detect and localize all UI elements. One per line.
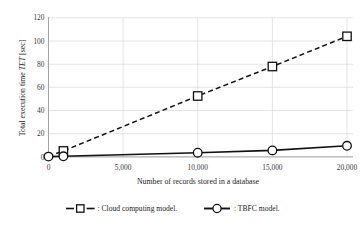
chart-svg: 120 100 80 60 40 20 0 0 5,000 10,000 15,… <box>0 0 363 229</box>
y-axis-title-suffix: [sec] <box>18 39 27 57</box>
legend-label-cloud-computing: : Cloud computing model. <box>98 204 178 213</box>
y-tick-label-100: 100 <box>33 37 44 46</box>
legend-entry-tbfc: : TBFC model. <box>204 204 280 213</box>
chart-legend: : Cloud computing model. : TBFC model. <box>66 204 280 213</box>
data-point-cloud-10000 <box>194 92 202 100</box>
data-point-tbfc-15000 <box>268 146 277 155</box>
y-tick-label-20: 20 <box>37 129 45 138</box>
x-tick-label-10000: 10,000 <box>188 163 209 172</box>
y-tick-label-120: 120 <box>33 13 44 22</box>
data-point-cloud-15000 <box>268 62 276 70</box>
y-axis-title-prefix: Total execution time <box>18 70 27 136</box>
y-tick-label-60: 60 <box>37 83 45 92</box>
legend-circle-marker-icon <box>213 204 221 212</box>
y-tick-label-80: 80 <box>37 60 45 69</box>
chart-background <box>0 0 363 229</box>
y-axis-title-group: Total execution time TET [sec] <box>18 39 27 136</box>
y-axis-title-symbol: TET <box>18 56 27 70</box>
chart-figure: 120 100 80 60 40 20 0 0 5,000 10,000 15,… <box>0 0 363 229</box>
x-tick-label-5000: 5,000 <box>115 163 132 172</box>
data-point-tbfc-10000 <box>193 148 202 157</box>
data-point-tbfc-20000 <box>343 142 352 151</box>
data-point-tbfc-1000 <box>59 152 68 161</box>
legend-label-tbfc: : TBFC model. <box>234 204 280 213</box>
data-point-tbfc-0 <box>44 152 53 161</box>
data-point-cloud-20000 <box>343 32 351 40</box>
x-tick-label-20000: 20,000 <box>337 163 358 172</box>
x-tick-label-0: 0 <box>47 163 51 172</box>
x-axis-title: Number of records stored in a database <box>137 177 260 186</box>
y-tick-label-40: 40 <box>37 106 45 115</box>
y-axis-title: Total execution time TET [sec] <box>18 39 27 136</box>
x-tick-label-15000: 15,000 <box>262 163 283 172</box>
legend-entry-cloud-computing: : Cloud computing model. <box>66 204 177 213</box>
legend-square-marker-icon <box>77 205 84 212</box>
